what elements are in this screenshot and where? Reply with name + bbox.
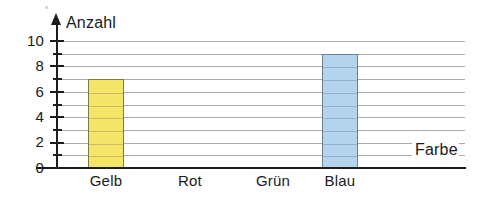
y-tick-1: [53, 154, 62, 156]
bar-gelb: [88, 79, 124, 168]
y-tick-label-4: 4: [14, 109, 44, 124]
bar-chart: 10 8 6 4 2 0 Gelb Rot Grün Blau Anzahl F…: [0, 0, 481, 202]
y-tick-label-6: 6: [14, 84, 44, 99]
y-tick-5: [53, 104, 62, 106]
y-tick-label-10: 10: [14, 33, 44, 48]
y-tick-3: [53, 129, 62, 131]
y-tick-label-2: 2: [14, 134, 44, 149]
y-tick-7: [53, 78, 62, 80]
x-category-label-rot: Rot: [150, 172, 230, 190]
x-category-label-gelb: Gelb: [66, 172, 146, 190]
scan-speck: [45, 6, 48, 9]
y-tick-label-8: 8: [14, 58, 44, 73]
y-tick-label-0: 0: [14, 160, 44, 175]
x-axis-line: [36, 167, 466, 169]
y-tick-0: [50, 167, 64, 169]
gridline-9: [57, 54, 465, 55]
gridline-10: [57, 41, 465, 42]
gridline-8: [57, 66, 465, 67]
y-tick-9: [53, 53, 62, 55]
y-axis-arrow-icon: [51, 13, 61, 25]
x-axis-title: Farbe: [412, 141, 459, 159]
y-tick-6: [50, 91, 64, 93]
y-axis-title: Anzahl: [66, 14, 116, 32]
y-tick-8: [50, 65, 64, 67]
plot-area: [57, 41, 465, 168]
y-tick-2: [50, 142, 64, 144]
y-tick-10: [50, 40, 64, 42]
y-axis-line: [56, 20, 58, 169]
bar-blau: [322, 54, 358, 168]
y-tick-4: [50, 116, 64, 118]
x-category-label-blau: Blau: [300, 172, 380, 190]
